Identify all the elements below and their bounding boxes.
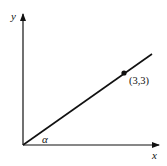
point-label: (3,3) xyxy=(129,75,150,87)
diagram-svg: y x α (3,3) xyxy=(0,0,167,166)
angle-label-alpha: α xyxy=(42,133,48,145)
line-through-origin xyxy=(23,54,152,145)
diagram-canvas: y x α (3,3) xyxy=(0,0,167,166)
point-3-3 xyxy=(121,70,126,75)
x-axis-label: x xyxy=(151,149,157,161)
y-axis-label: y xyxy=(10,10,16,22)
